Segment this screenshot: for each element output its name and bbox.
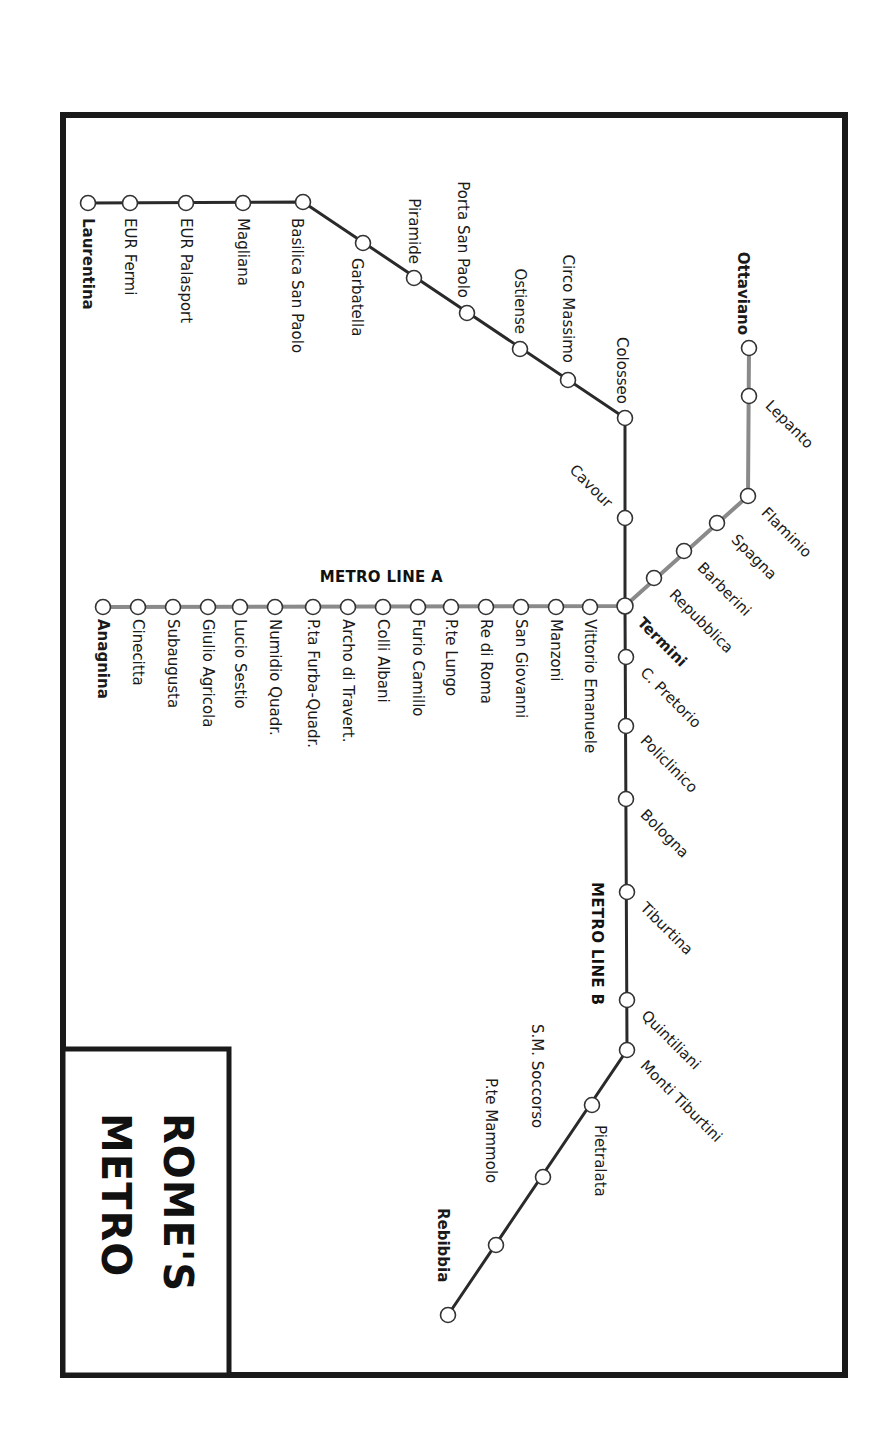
rome-metro-map: Ottaviano Lepanto Flaminio Spagna Barber…: [0, 0, 894, 1435]
station-basilica-san-paolo[interactable]: [296, 195, 311, 210]
station-sm-soccorso[interactable]: [536, 1170, 551, 1185]
station-eur-fermi[interactable]: [123, 196, 138, 211]
station-pietralata[interactable]: [585, 1098, 600, 1113]
label-re-di-roma: Re di Roma: [477, 619, 495, 704]
station-cinecitta[interactable]: [131, 600, 146, 615]
label-piramide: Piramide: [405, 198, 423, 264]
station-giulio-agricola[interactable]: [201, 600, 216, 615]
label-tiburtina: Tiburtina: [636, 898, 697, 959]
label-pta-furba-quadr: P.ta Furba-Quadr.: [304, 619, 322, 748]
label-rebibbia: Rebibbia: [434, 1208, 452, 1282]
station-flaminio[interactable]: [741, 489, 756, 504]
station-colli-albani[interactable]: [376, 600, 391, 615]
station-manzoni[interactable]: [549, 600, 564, 615]
line-b-title: METRO LINE B: [588, 882, 606, 1005]
label-san-giovanni: San Giovanni: [512, 619, 530, 718]
label-magliana: Magliana: [234, 218, 252, 286]
label-pietralata: Pietralata: [591, 1125, 609, 1197]
label-pte-mammolo: P.te Mammolo: [482, 1078, 500, 1183]
station-archo-di-travert[interactable]: [341, 600, 356, 615]
label-anagnina: Anagnina: [94, 619, 112, 699]
label-porta-san-paolo: Porta San Paolo: [454, 181, 472, 298]
station-ottaviano[interactable]: [742, 341, 757, 356]
station-quintiliani[interactable]: [620, 993, 635, 1008]
station-rebibbia[interactable]: [441, 1308, 456, 1323]
label-giulio-agricola: Giulio Agricola: [199, 619, 217, 727]
station-c-pretorio[interactable]: [619, 650, 634, 665]
title-box: [63, 1049, 229, 1375]
station-numidio-quadr[interactable]: [268, 600, 283, 615]
label-ottaviano: Ottaviano: [734, 252, 752, 335]
station-cavour[interactable]: [618, 511, 633, 526]
station-colosseo[interactable]: [618, 411, 633, 426]
station-pte-lungo[interactable]: [444, 600, 459, 615]
station-bologna[interactable]: [619, 792, 634, 807]
station-porta-san-paolo[interactable]: [460, 306, 475, 321]
station-ostiense[interactable]: [513, 342, 528, 357]
label-bologna: Bologna: [637, 806, 693, 862]
label-laurentina: Laurentina: [79, 218, 97, 310]
label-c-pretorio: C. Pretorio: [637, 664, 705, 732]
label-circo-massimo: Circo Massimo: [559, 255, 577, 363]
label-colli-albani: Colli Albani: [374, 619, 392, 703]
label-lepanto: Lepanto: [762, 397, 818, 453]
label-vittorio-emanuele: Vittorio Emanuele: [581, 619, 599, 753]
station-lucio-sestio[interactable]: [233, 600, 248, 615]
station-magliana[interactable]: [236, 196, 251, 211]
line-a-title: METRO LINE A: [320, 568, 443, 586]
station-vittorio-emanuele[interactable]: [583, 600, 598, 615]
label-garbatella: Garbatella: [348, 258, 366, 336]
map-title-line2: METRO: [93, 1113, 139, 1277]
label-lucio-sestio: Lucio Sestio: [231, 619, 249, 709]
station-policlinico[interactable]: [619, 719, 634, 734]
station-lepanto[interactable]: [742, 389, 757, 404]
station-spagna[interactable]: [710, 516, 725, 531]
station-piramide[interactable]: [407, 271, 422, 286]
label-sm-soccorso: S.M. Soccorso: [528, 1024, 546, 1128]
station-repubblica[interactable]: [647, 571, 662, 586]
label-termini: Termini: [634, 614, 691, 671]
label-eur-fermi: EUR Fermi: [121, 218, 139, 295]
station-san-giovanni[interactable]: [514, 600, 529, 615]
label-furio-camillo: Furio Camillo: [409, 619, 427, 717]
station-furio-camillo[interactable]: [411, 600, 426, 615]
station-barberini[interactable]: [677, 544, 692, 559]
station-pte-mammolo[interactable]: [489, 1238, 504, 1253]
station-garbatella[interactable]: [356, 236, 371, 251]
label-numidio-quadr: Numidio Quadr.: [266, 619, 284, 736]
station-circo-massimo[interactable]: [561, 373, 576, 388]
label-flaminio: Flaminio: [758, 504, 816, 562]
map-title-line1: ROME'S: [155, 1113, 201, 1292]
label-cavour: Cavour: [566, 461, 617, 512]
label-monti-tiburtini: Monti Tiburtini: [637, 1057, 726, 1146]
station-tiburtina[interactable]: [620, 885, 635, 900]
label-archo-di-travert: Archo di Travert.: [339, 619, 357, 743]
label-policlinico: Policlinico: [637, 732, 702, 797]
station-eur-palasport[interactable]: [179, 196, 194, 211]
label-colosseo: Colosseo: [613, 337, 631, 404]
label-manzoni: Manzoni: [547, 619, 565, 681]
label-pte-lungo: P.te Lungo: [442, 619, 460, 696]
station-pta-furba-quadr[interactable]: [306, 600, 321, 615]
station-subaugusta[interactable]: [166, 600, 181, 615]
line-a-labels: Ottaviano Lepanto Flaminio Spagna Barber…: [94, 252, 817, 754]
label-ostiense: Ostiense: [511, 269, 529, 334]
station-laurentina[interactable]: [81, 196, 96, 211]
station-anagnina[interactable]: [96, 600, 111, 615]
label-cinecitta: Cinecitta: [129, 619, 147, 686]
label-subaugusta: Subaugusta: [164, 619, 182, 708]
station-monti-tiburtini[interactable]: [620, 1043, 635, 1058]
label-spagna: Spagna: [728, 531, 781, 584]
station-termini[interactable]: [617, 598, 633, 614]
label-basilica-san-paolo: Basilica San Paolo: [288, 218, 306, 353]
station-re-di-roma[interactable]: [479, 600, 494, 615]
label-eur-palasport: EUR Palasport: [177, 218, 195, 323]
